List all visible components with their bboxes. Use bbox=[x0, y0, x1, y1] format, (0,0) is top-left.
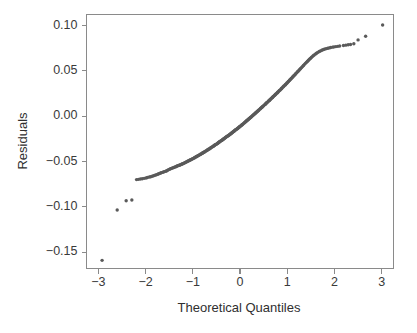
scatter-point bbox=[364, 35, 367, 38]
x-tick-label: −3 bbox=[91, 275, 105, 289]
y-tick-label: −0.15 bbox=[46, 244, 78, 258]
scatter-point bbox=[349, 43, 352, 46]
y-tick-label: 0.00 bbox=[53, 108, 77, 122]
x-tick-label: 0 bbox=[237, 275, 244, 289]
scatter-point bbox=[130, 198, 133, 201]
x-axis-title: Theoretical Quantiles bbox=[178, 300, 301, 315]
scatter-point bbox=[116, 208, 119, 211]
scatter-point bbox=[124, 199, 127, 202]
y-tick-label: 0.05 bbox=[53, 63, 77, 77]
scatter-point bbox=[381, 23, 384, 26]
x-tick-label: 3 bbox=[378, 275, 385, 289]
qq-plot-canvas: −3−2−10123 0.100.050.00−0.05−0.10−0.15 T… bbox=[0, 0, 417, 333]
scatter-point bbox=[338, 44, 341, 47]
y-tick-label: −0.05 bbox=[46, 154, 78, 168]
y-tick-label: −0.10 bbox=[46, 199, 78, 213]
scatter-point bbox=[352, 42, 355, 45]
scatter-point bbox=[100, 259, 103, 262]
x-tick-label: 2 bbox=[331, 275, 338, 289]
x-tick-label: 1 bbox=[284, 275, 291, 289]
scatter-point bbox=[356, 38, 359, 41]
y-axis-title: Residuals bbox=[15, 112, 30, 170]
y-tick-label: 0.10 bbox=[53, 18, 77, 32]
qq-plot-figure: −3−2−10123 0.100.050.00−0.05−0.10−0.15 T… bbox=[0, 0, 417, 333]
x-tick-label: −2 bbox=[138, 275, 152, 289]
x-tick-label: −1 bbox=[186, 275, 200, 289]
